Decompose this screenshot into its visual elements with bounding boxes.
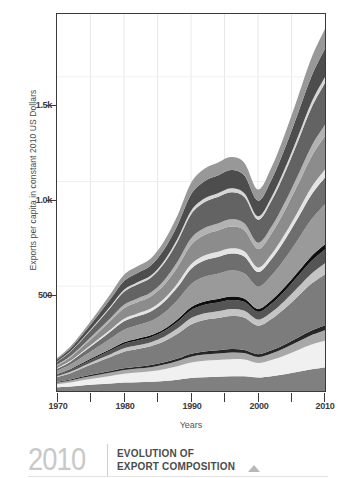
chart-figure: Exports per capita in constant 2010 US D…: [0, 0, 339, 478]
caption-year: 2010: [28, 444, 87, 475]
x-tick-label-1980: 1980: [103, 401, 147, 411]
x-tick-mark-1985: [157, 393, 158, 402]
y-tick-label-1500: 1.5k: [22, 100, 52, 110]
caption-title: EVOLUTION OF EXPORT COMPOSITION: [117, 447, 235, 472]
caption-line-1: EVOLUTION OF: [117, 447, 235, 460]
triangle-up-icon: [248, 465, 260, 472]
x-tick-label-2010: 2010: [303, 401, 339, 411]
x-tick-label-1990: 1990: [170, 401, 214, 411]
x-tick-label-1970: 1970: [36, 401, 80, 411]
y-tick-label-500: 500: [22, 290, 52, 300]
x-axis-title: Years: [56, 420, 326, 430]
caption-line-2: EXPORT COMPOSITION: [117, 460, 235, 473]
x-tick-mark-1995: [224, 393, 225, 402]
y-tick-label-1000: 1.0k: [22, 195, 52, 205]
x-tick-mark-2005: [291, 393, 292, 402]
caption-underline: [28, 476, 328, 477]
caption-block: 2010 EVOLUTION OF EXPORT COMPOSITION: [28, 441, 328, 478]
caption-title-row: EVOLUTION OF EXPORT COMPOSITION: [117, 447, 260, 472]
caption-divider: [107, 444, 108, 476]
x-tick-mark-1975: [90, 393, 91, 402]
x-tick-label-2000: 2000: [237, 401, 281, 411]
stacked-area-svg: [57, 14, 325, 391]
plot-area: [56, 13, 326, 392]
